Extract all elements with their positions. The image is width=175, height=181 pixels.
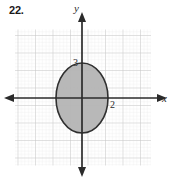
x-intercept-label: 2 bbox=[110, 99, 115, 110]
y-intercept-label: 3 bbox=[73, 57, 78, 68]
coordinate-plane-figure: x y 3 2 bbox=[0, 0, 175, 181]
figure-screenshot: 22. x y 3 bbox=[0, 0, 175, 181]
y-axis-label: y bbox=[73, 2, 79, 14]
x-axis-label: x bbox=[161, 92, 167, 104]
